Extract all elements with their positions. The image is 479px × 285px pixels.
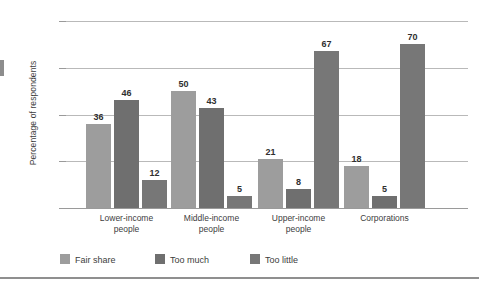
bottom-divider-rule — [0, 277, 479, 279]
bar-value-label: 5 — [365, 184, 405, 194]
x-axis-label-line2: people — [239, 224, 359, 235]
bar-value-label: 36 — [79, 112, 119, 122]
legend-item-1[interactable]: Too much — [155, 249, 209, 263]
y-tick-stub-60 — [59, 68, 66, 69]
bar[interactable] — [286, 189, 311, 208]
bar-value-label: 43 — [192, 96, 232, 106]
bar-value-label: 12 — [135, 168, 175, 178]
x-axis-label-line1: Lower-income — [100, 213, 153, 223]
bar[interactable] — [171, 91, 196, 208]
bar[interactable] — [227, 196, 252, 208]
bar[interactable] — [142, 180, 167, 208]
legend-item-2[interactable]: Too little — [250, 249, 298, 263]
bar-group-0: 364612 — [86, 21, 167, 208]
gridline-0 — [66, 208, 468, 209]
y-tick-stub-20 — [59, 161, 66, 162]
bar-group-2: 21867 — [258, 21, 339, 208]
plot-area: 020406080 364612504352186718570 — [66, 21, 468, 208]
legend-label: Fair share — [75, 255, 116, 265]
bar-group-1: 50435 — [171, 21, 252, 208]
y-tick-stub-0 — [59, 208, 66, 209]
clipped-edge-fragment — [0, 60, 4, 76]
bar-value-label: 70 — [393, 32, 433, 42]
bar[interactable] — [314, 51, 339, 208]
legend-swatch-icon — [250, 254, 260, 264]
bar-group-3: 18570 — [344, 21, 425, 208]
bar-value-label: 50 — [164, 79, 204, 89]
bar-value-label: 46 — [107, 88, 147, 98]
x-axis-label-line1: Middle-income — [184, 213, 239, 223]
y-axis-title: Percentage of respondents — [28, 33, 38, 193]
legend-item-0[interactable]: Fair share — [60, 249, 116, 263]
x-axis-label-3: Corporations — [325, 213, 445, 224]
y-tick-stub-40 — [59, 115, 66, 116]
bar[interactable] — [114, 100, 139, 208]
y-tick-stub-80 — [59, 21, 66, 22]
bar[interactable] — [400, 44, 425, 208]
bar[interactable] — [372, 196, 397, 208]
x-axis-label-line1: Corporations — [360, 213, 409, 223]
bar-value-label: 21 — [251, 147, 291, 157]
bar-value-label: 18 — [337, 154, 377, 164]
legend-label: Too much — [170, 255, 209, 265]
legend-swatch-icon — [155, 254, 165, 264]
legend-label: Too little — [265, 255, 298, 265]
bar-value-label: 8 — [279, 177, 319, 187]
bar-value-label: 67 — [307, 39, 347, 49]
legend-swatch-icon — [60, 254, 70, 264]
bar-chart-figure: Percentage of respondents 020406080 3646… — [0, 0, 479, 285]
x-axis-label-line1: Upper-income — [272, 213, 325, 223]
bar-value-label: 5 — [220, 184, 260, 194]
bar[interactable] — [86, 124, 111, 208]
